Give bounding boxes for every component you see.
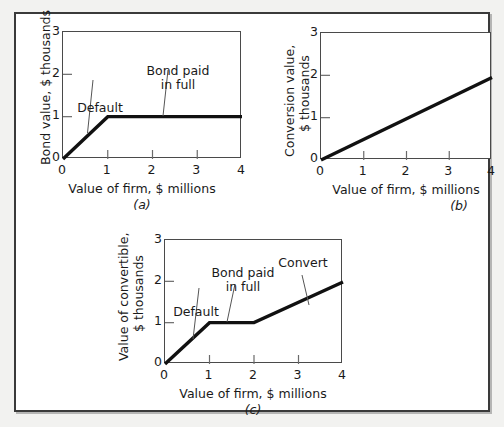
panel-b-ytick-2: 2 <box>300 68 318 81</box>
panel-a-caption: (a) <box>102 197 182 212</box>
panel-a-xtick-4: 4 <box>231 164 251 177</box>
panel-b-xtick-1: 1 <box>353 165 373 178</box>
panel-a-ytick-3: 3 <box>42 25 60 38</box>
panel-a-x-axis-title: Value of firm, $ millions <box>52 181 232 196</box>
panel-c-annotation-default: Default <box>166 305 226 319</box>
panel-a-annotation-bond-paid-line2: in full <box>142 78 214 92</box>
panel-b-x-axis-title: Value of firm, $ millions <box>316 182 496 197</box>
panel-c-xtick-3: 3 <box>288 369 308 382</box>
panel-c-xtick-4: 4 <box>332 369 352 382</box>
panel-a-ytick-2: 2 <box>42 67 60 80</box>
panel-a-xtick-2: 2 <box>142 164 162 177</box>
panel-a-plot-area <box>62 31 241 158</box>
panel-a: Bond value, $ thousands 3 2 1 0 <box>16 14 254 209</box>
panel-b-xtick-0: 0 <box>310 165 330 178</box>
panel-a-xtick-0: 0 <box>52 164 72 177</box>
panel-b-plot-svg <box>321 33 492 160</box>
panel-c-annotation-bond-paid: Bond paid in full <box>207 266 279 294</box>
panel-a-xtick-3: 3 <box>186 164 206 177</box>
panel-b: Conversion value, $ thousands 3 2 1 0 0 … <box>254 14 492 209</box>
panel-c-y-axis-title-line1: Value of convertible, <box>116 233 131 361</box>
panel-b-y-axis-title-line1: Conversion value, <box>282 45 297 157</box>
panel-b-data-curve <box>321 77 492 160</box>
panel-c-x-axis-title: Value of firm, $ millions <box>163 386 343 401</box>
panel-a-annotation-bond-paid: Bond paid in full <box>142 64 214 92</box>
panel-a-annotation-bond-paid-line1: Bond paid <box>142 64 214 78</box>
panel-b-plot-area <box>320 32 491 159</box>
panel-c-annotation-convert: Convert <box>271 256 335 270</box>
panel-a-annotation-default: Default <box>70 101 130 115</box>
panel-c-annotation-bond-paid-line1: Bond paid <box>207 266 279 280</box>
panel-b-caption: (b) <box>439 198 479 213</box>
panel-b-xtick-4: 4 <box>481 165 501 178</box>
figure-frame: Bond value, $ thousands 3 2 1 0 <box>14 12 490 412</box>
panel-c-ytick-2: 2 <box>144 274 162 287</box>
panel-b-ytick-3: 3 <box>300 26 318 39</box>
panel-c-ytick-1: 1 <box>144 315 162 328</box>
panel-b-ytick-1: 1 <box>300 110 318 123</box>
panel-c: Value of convertible, $ thousands 3 2 1 … <box>104 211 369 411</box>
panel-c-xtick-2: 2 <box>243 369 263 382</box>
panel-b-xtick-2: 2 <box>396 165 416 178</box>
panel-c-xtick-0: 0 <box>154 369 174 382</box>
panel-a-xtick-1: 1 <box>97 164 117 177</box>
panel-c-data-curve <box>165 282 343 364</box>
panel-c-caption: (c) <box>233 402 273 417</box>
panel-c-xtick-1: 1 <box>199 369 219 382</box>
panel-c-ytick-3: 3 <box>144 233 162 246</box>
panel-a-ytick-1: 1 <box>42 109 60 122</box>
panel-b-xtick-3: 3 <box>438 165 458 178</box>
panel-a-plot-svg <box>63 32 242 159</box>
panel-c-annotation-bond-paid-line2: in full <box>207 280 279 294</box>
